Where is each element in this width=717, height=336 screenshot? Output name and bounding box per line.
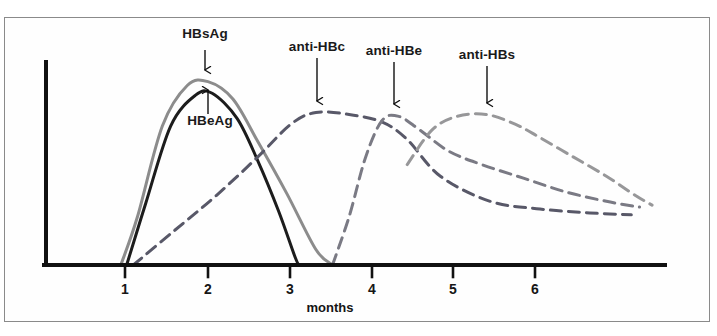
annotation-arrows (205, 50, 487, 114)
curve-label-anti-hbc: anti-HBc (289, 39, 345, 54)
curve-anti-hbe (333, 115, 640, 265)
curve-label-hbsag: HBsAg (182, 26, 228, 41)
curve-hbsag (121, 80, 333, 265)
axis-group (44, 62, 665, 277)
x-tick-label-4: 4 (360, 281, 384, 297)
curve-label-anti-hbs: anti-HBs (459, 47, 515, 62)
curve-label-anti-hbe: anti-HBe (366, 43, 422, 58)
x-tick-label-6: 6 (523, 281, 547, 297)
x-tick-label-3: 3 (278, 281, 302, 297)
curve-group (121, 80, 652, 265)
curve-anti-hbs (407, 114, 652, 205)
curve-label-hbeag: HBeAg (187, 113, 233, 128)
x-tick-label-1: 1 (113, 281, 137, 297)
x-tick-label-5: 5 (441, 281, 465, 297)
serology-chart-svg (0, 0, 717, 336)
x-axis-title: months (250, 300, 410, 315)
hepatitis-serology-figure: HBsAgHBeAganti-HBcanti-HBeanti-HBs123456… (0, 0, 717, 336)
x-tick-label-2: 2 (196, 281, 220, 297)
